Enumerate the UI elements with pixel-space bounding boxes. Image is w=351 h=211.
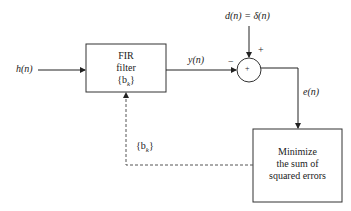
fir-line2: filter bbox=[86, 62, 166, 74]
minimize-text: Minimize the sum of squared errors bbox=[253, 146, 342, 182]
feedback-close: } bbox=[149, 140, 154, 151]
feedback-label: {bk} bbox=[136, 140, 154, 154]
minimize-line2: the sum of bbox=[253, 158, 342, 170]
error-label: e(n) bbox=[303, 86, 319, 97]
minimize-line3: squared errors bbox=[253, 170, 342, 182]
feedback-open: {b bbox=[136, 140, 146, 151]
output-label: y(n) bbox=[188, 54, 204, 65]
feedback-path bbox=[126, 93, 253, 165]
fir-coef-close: } bbox=[130, 74, 135, 85]
minus-sign: − bbox=[228, 56, 234, 67]
fir-line3: {bk} bbox=[86, 74, 166, 90]
fir-filter-text: FIR filter {bk} bbox=[86, 50, 166, 90]
desired-label: d(n) = δ(n) bbox=[225, 10, 270, 21]
input-label: h(n) bbox=[16, 63, 33, 74]
plus-sign: + bbox=[258, 44, 264, 55]
error-path bbox=[261, 68, 298, 128]
summer-symbol: + bbox=[245, 64, 250, 73]
fir-line1: FIR bbox=[86, 50, 166, 62]
minimize-line1: Minimize bbox=[253, 146, 342, 158]
fir-coef-open: {b bbox=[117, 74, 127, 85]
